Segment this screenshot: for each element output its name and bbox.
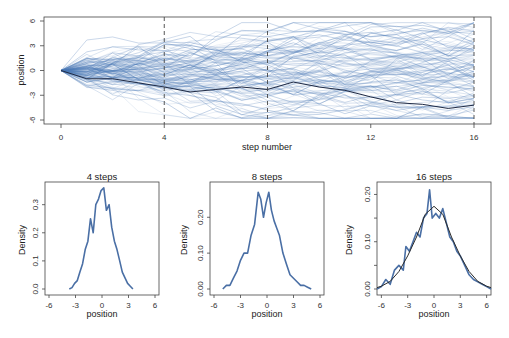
y-axis-label: position [16,54,26,85]
panel-title: 16 steps [416,171,452,182]
x-tick-label: -6 [378,301,386,310]
x-axis-label: position [86,309,117,319]
svg-text:6: 6 [28,18,37,23]
y-tick-label: 0.00 [363,281,372,297]
x-tick-label: 3 [458,301,463,310]
x-tick-label: -6 [45,301,53,310]
x-axis-label: position [418,309,449,319]
panel-frame [45,182,159,295]
density-plot-16-steps: 16 steps position Density -6-30360.000.1… [344,171,491,319]
svg-text:-3: -3 [28,91,37,99]
x-tick-label: 6 [318,301,323,310]
x-tick-label: 0 [100,301,105,310]
svg-text:4: 4 [162,133,167,142]
y-axis-label: Density [179,224,189,255]
x-axis-label: position [251,309,282,319]
y-tick-label: 0.20 [363,186,372,202]
svg-text:16: 16 [470,133,479,142]
density-plot-8-steps: 8 steps position Density -6-30360.000.10… [179,171,324,319]
x-tick-label: 3 [291,301,296,310]
random-walk-figure: step number position 4 steps position De… [0,0,509,338]
svg-text:0: 0 [28,68,37,73]
x-tick-label: 6 [153,301,158,310]
normal-curve [377,206,491,287]
density-line [377,190,491,289]
panel-title: 8 steps [252,171,283,182]
y-tick-label: 0.3 [31,199,40,211]
y-tick-label: 0.20 [196,209,205,225]
y-tick-label: 0.1 [31,255,40,267]
x-tick-label: 0 [265,301,270,310]
y-tick-label: 0.00 [196,281,205,297]
x-axis-label: step number [242,142,292,152]
svg-text:3: 3 [28,43,37,48]
svg-text:12: 12 [366,133,375,142]
y-tick-label: 0.10 [363,233,372,249]
svg-text:8: 8 [265,133,270,142]
density-line [223,192,311,289]
svg-text:-6: -6 [28,116,37,124]
x-tick-label: 6 [484,301,489,310]
x-tick-label: 0 [432,301,437,310]
y-tick-label: 0.0 [31,283,40,295]
svg-text:0: 0 [59,133,64,142]
y-axis-label: Density [344,224,354,255]
y-axis-label: Density [17,224,27,255]
density-plot-4-steps: 4 steps position Density -6-30360.00.10.… [17,171,159,319]
panel-title: 4 steps [87,171,118,182]
x-tick-label: -3 [237,301,245,310]
y-tick-label: 0.2 [31,227,40,239]
density-line [69,188,133,289]
x-tick-label: -3 [72,301,80,310]
panel-frame [377,182,491,295]
y-tick-label: 0.10 [196,245,205,261]
x-tick-label: -6 [210,301,218,310]
x-tick-label: -3 [404,301,412,310]
x-tick-label: 3 [126,301,131,310]
